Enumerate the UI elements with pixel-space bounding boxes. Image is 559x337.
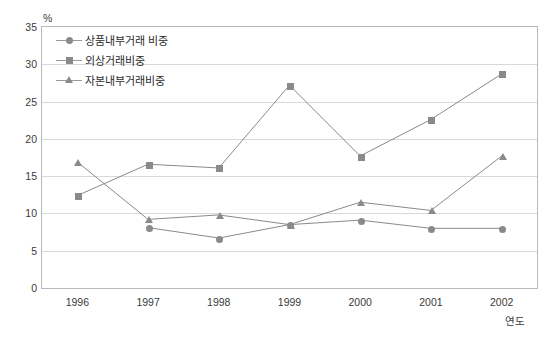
- y-axis-tick: 35: [3, 22, 37, 32]
- chart-legend: 상품내부거래 비중외상거래비중자본내부거래비중: [56, 30, 226, 90]
- data-point-circle: [499, 226, 506, 233]
- y-axis-tick-labels: 35302520151050: [0, 0, 37, 337]
- data-point-triangle: [499, 153, 507, 160]
- data-point-square: [216, 165, 223, 172]
- chart-page: % 35302520151050 19961997199819992000200…: [0, 0, 559, 337]
- data-point-circle: [146, 225, 153, 232]
- legend-item[interactable]: 자본내부거래비중: [56, 70, 226, 90]
- y-axis-tick: 10: [3, 208, 37, 218]
- y-axis-tick: 15: [3, 171, 37, 181]
- y-axis-tick: 25: [3, 97, 37, 107]
- legend-label: 상품내부거래 비중: [85, 32, 168, 48]
- data-point-square: [358, 154, 365, 161]
- y-axis-unit-label: %: [43, 12, 52, 24]
- y-axis-tick: 0: [3, 283, 37, 293]
- legend-item[interactable]: 상품내부거래 비중: [56, 30, 226, 50]
- legend-item[interactable]: 외상거래비중: [56, 50, 226, 70]
- data-point-square: [75, 193, 82, 200]
- x-axis-tick: 1997: [118, 296, 178, 308]
- data-point-square: [499, 71, 506, 78]
- data-point-circle: [216, 236, 223, 243]
- y-axis-tick: 30: [3, 59, 37, 69]
- legend-marker-triangle-icon: [56, 74, 82, 86]
- legend-label: 자본내부거래비중: [85, 72, 165, 88]
- legend-label: 외상거래비중: [85, 52, 145, 68]
- data-point-triangle: [145, 216, 153, 223]
- data-point-circle: [428, 226, 435, 233]
- data-point-triangle: [74, 159, 82, 166]
- legend-marker-circle-icon: [56, 34, 82, 46]
- x-axis-tick: 1999: [260, 296, 320, 308]
- x-axis-tick: 2001: [401, 296, 461, 308]
- legend-marker-square-icon: [56, 54, 82, 66]
- x-axis-tick: 2002: [472, 296, 532, 308]
- y-axis-tick: 20: [3, 134, 37, 144]
- data-point-triangle: [357, 199, 365, 206]
- data-point-triangle: [216, 212, 224, 219]
- data-point-square: [287, 83, 294, 90]
- data-point-circle: [358, 218, 365, 225]
- data-point-square: [146, 162, 153, 169]
- data-point-triangle: [287, 222, 295, 229]
- x-axis-title: 연도: [505, 313, 525, 328]
- y-axis-tick: 5: [3, 246, 37, 256]
- x-axis-tick: 1998: [189, 296, 249, 308]
- x-axis-tick: 2000: [330, 296, 390, 308]
- x-axis-tick: 1996: [47, 296, 107, 308]
- data-point-square: [428, 117, 435, 124]
- data-point-triangle: [428, 207, 436, 214]
